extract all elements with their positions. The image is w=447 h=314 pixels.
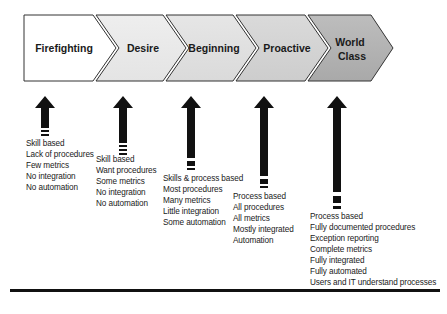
description-line: Skills & process based <box>163 173 243 184</box>
description-line: All metrics <box>233 213 294 224</box>
stage-label-proactive: Proactive <box>263 42 310 54</box>
description-line: Few metrics <box>26 160 94 171</box>
stage-label-world-class-line1: World <box>335 36 365 48</box>
description-line: Want procedures <box>96 165 157 176</box>
description-line: Automation <box>233 235 294 246</box>
description-line: Little integration <box>163 206 243 217</box>
stage-label-world-class-line2: Class <box>338 50 366 62</box>
description-line: Some automation <box>163 217 243 228</box>
stage-firefighting: Firefighting <box>24 15 116 81</box>
description-line: No automation <box>26 182 94 193</box>
description-line: No integration <box>26 171 94 182</box>
description-line: Many metrics <box>163 195 243 206</box>
arrow-up-icon <box>254 96 274 188</box>
description-line: No automation <box>96 198 157 209</box>
description-line: Exception reporting <box>310 233 436 244</box>
description-line: Fully integrated <box>310 255 436 266</box>
stage-description-beginning: Skills & process based Most procedures M… <box>163 173 243 228</box>
arrow-up-icon <box>181 96 201 170</box>
arrow-up-icon <box>113 96 133 155</box>
description-line: Skill based <box>96 154 157 165</box>
arrow-up-icon <box>327 96 347 209</box>
stage-label-firefighting: Firefighting <box>35 42 93 54</box>
arrow-up-icon <box>35 96 55 136</box>
description-line: Process based <box>310 211 436 222</box>
description-line: Users and IT understand processes <box>310 277 436 288</box>
description-line: Mostly integrated <box>233 224 294 235</box>
description-line: Lack of procedures <box>26 149 94 160</box>
description-line: Fully automated <box>310 266 436 277</box>
description-line: Complete metrics <box>310 244 436 255</box>
description-line: Skill based <box>26 138 94 149</box>
stage-description-desire: Skill based Want procedures Some metrics… <box>96 154 157 209</box>
stage-label-beginning: Beginning <box>188 42 239 54</box>
stage-description-proactive: Process based All procedures All metrics… <box>233 191 294 246</box>
description-line: All procedures <box>233 202 294 213</box>
description-line: No integration <box>96 187 157 198</box>
description-line: Most procedures <box>163 184 243 195</box>
description-line: Some metrics <box>96 176 157 187</box>
bottom-divider <box>10 289 440 292</box>
stage-description-world-class: Process based Fully documented procedure… <box>310 211 436 288</box>
stage-description-firefighting: Skill based Lack of procedures Few metri… <box>26 138 94 193</box>
stage-label-desire: Desire <box>127 42 159 54</box>
description-line: Fully documented procedures <box>310 222 436 233</box>
description-line: Process based <box>233 191 294 202</box>
